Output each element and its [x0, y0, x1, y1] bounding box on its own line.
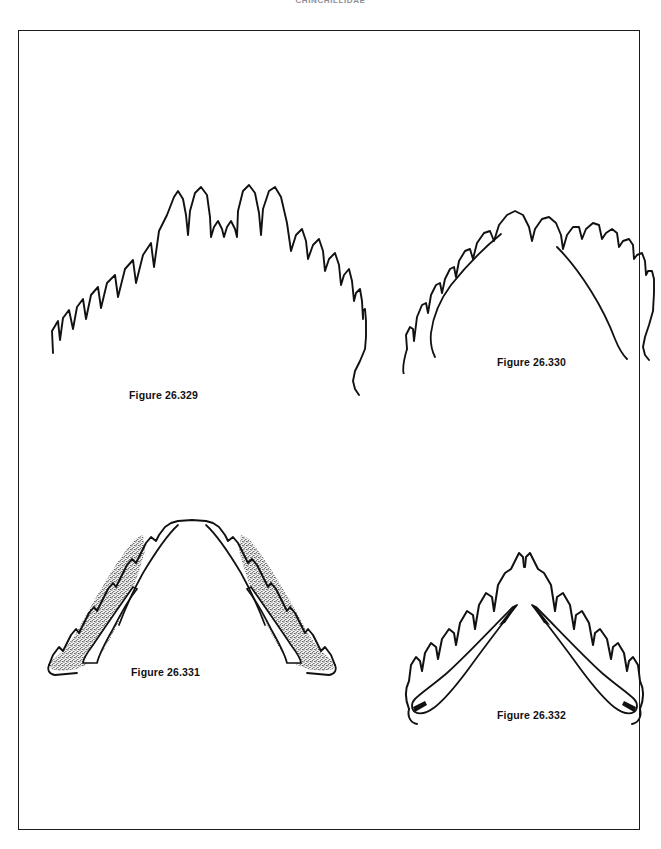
figure-caption-26-330: Figure 26.330	[497, 356, 566, 368]
running-header: CHINCHILLIDAE	[0, 0, 661, 4]
figure-26-332: Figure 26.332	[387, 549, 661, 734]
figure-26-329: Figure 26.329	[47, 171, 367, 416]
dental-arch-drawing-332	[387, 549, 661, 734]
stipple-shading-left	[47, 513, 192, 683]
figure-26-330: Figure 26.330	[389, 199, 659, 374]
figure-caption-26-331: Figure 26.331	[131, 666, 200, 678]
figure-26-331: Figure 26.331	[47, 513, 337, 683]
figure-caption-26-329: Figure 26.329	[129, 389, 198, 401]
plate-border: Figure 26.329 Figure 26.330	[18, 30, 640, 830]
dental-arch-drawing-330	[389, 199, 659, 374]
dental-arch-drawing-329	[47, 171, 367, 416]
figure-caption-26-332: Figure 26.332	[497, 709, 566, 721]
stipple-shading-right	[192, 513, 337, 683]
dental-arch-drawing-331	[47, 513, 337, 683]
